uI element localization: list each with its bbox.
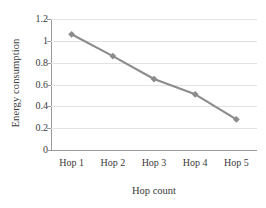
y-axis-tick-label: 1 <box>24 36 48 46</box>
y-axis-tick-label: 0.2 <box>24 123 48 133</box>
x-axis-line <box>51 150 257 151</box>
x-axis-tick-label: Hop 5 <box>210 156 262 169</box>
y-axis-tick-label: 0.6 <box>24 80 48 90</box>
x-axis-title: Hop count <box>51 184 257 197</box>
y-axis-tick-mark <box>47 63 51 64</box>
x-axis-tick-labels: Hop 1Hop 2Hop 3Hop 4Hop 5 <box>51 156 257 170</box>
y-axis-tick-mark <box>47 85 51 86</box>
y-axis-tick-label: 0.8 <box>24 58 48 68</box>
y-axis-tick-mark <box>47 150 51 151</box>
y-axis-tick-label: 1.2 <box>24 14 48 24</box>
series-markers <box>68 31 240 123</box>
y-axis-title: Energy consumption <box>9 8 23 158</box>
y-axis-tick-labels: 00.20.40.60.811.2 <box>24 14 48 150</box>
y-axis-tick-mark <box>47 128 51 129</box>
y-axis-tick-label: 0.4 <box>24 101 48 111</box>
y-axis-tick-mark <box>47 106 51 107</box>
y-axis-tick-label: 0 <box>24 145 48 155</box>
y-axis-tick-mark <box>47 19 51 20</box>
y-axis-tick-mark <box>47 41 51 42</box>
data-series-layer <box>51 19 257 150</box>
line-chart: Energy consumption 00.20.40.60.811.2 Hop… <box>0 0 266 208</box>
